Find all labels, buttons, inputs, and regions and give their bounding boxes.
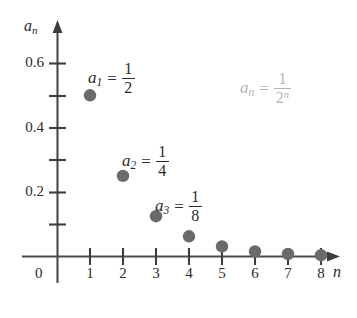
data-point-n5 — [216, 240, 228, 252]
data-point-n6 — [249, 245, 261, 257]
y-tick-label-0.2: 0.2 — [12, 184, 44, 199]
x-tick-label-7: 7 — [280, 266, 296, 281]
x-tick-label-5: 5 — [214, 266, 230, 281]
data-point-n4 — [183, 230, 195, 242]
annotation-a2-denominator: 4 — [156, 162, 168, 179]
annotation-a3-denominator: 8 — [189, 207, 201, 224]
y-axis-label-term: a — [24, 17, 32, 34]
x-axis-label-term: n — [333, 263, 341, 280]
plot-canvas — [0, 0, 357, 318]
y-tick-label-0.6: 0.6 — [12, 55, 44, 70]
annotation-general-subscript: n — [249, 87, 255, 99]
annotation-a2-equals: = — [141, 152, 151, 172]
annotation-a1-equals: = — [107, 69, 117, 89]
x-axis-label: n — [333, 264, 341, 280]
annotation-general-numerator: 1 — [276, 71, 288, 88]
y-axis-label-subscript: n — [32, 24, 38, 36]
x-axis-arrowhead — [327, 252, 340, 262]
annotation-general-denominator: 2n — [274, 89, 291, 106]
x-tick-label-8: 8 — [313, 266, 329, 281]
annotation-a1: a1 = 1 2 — [88, 61, 135, 96]
annotation-general-formula: an = 1 2n — [240, 71, 291, 106]
x-tick-label-1: 1 — [82, 266, 98, 281]
annotation-a1-term: a1 — [88, 68, 102, 88]
x-tick-label-4: 4 — [181, 266, 197, 281]
annotation-a3-equals: = — [174, 197, 184, 217]
x-tick-label-3: 3 — [148, 266, 164, 281]
annotation-a1-denominator: 2 — [122, 79, 134, 96]
annotation-a1-fraction: 1 2 — [122, 61, 135, 96]
sequence-plot-figure: an n 0.6 0.4 0.2 0 1 2 3 4 5 6 7 8 a1 = … — [0, 0, 357, 318]
annotation-a3-subscript: 3 — [164, 205, 170, 217]
annotation-a3: a3 = 1 8 — [155, 189, 202, 224]
annotation-a2-fraction: 1 4 — [156, 144, 169, 179]
annotation-a3-numerator: 1 — [189, 189, 201, 206]
annotation-a2-term: a2 — [122, 151, 136, 171]
y-axis-label: an — [24, 18, 38, 36]
origin-label: 0 — [35, 266, 43, 281]
annotation-a3-fraction: 1 8 — [189, 189, 202, 224]
annotation-a2-numerator: 1 — [156, 144, 168, 161]
annotation-a3-term: a3 — [155, 196, 169, 216]
y-tick-label-0.4: 0.4 — [12, 120, 44, 135]
annotation-general-exponent: n — [284, 90, 289, 101]
x-tick-label-2: 2 — [115, 266, 131, 281]
data-point-n8 — [315, 249, 327, 261]
data-point-n7 — [282, 248, 294, 260]
annotation-general-fraction: 1 2n — [274, 71, 291, 106]
y-axis-arrowhead — [53, 20, 63, 33]
annotation-a2-subscript: 2 — [131, 160, 137, 172]
annotation-a1-subscript: 1 — [97, 77, 103, 89]
x-tick-label-6: 6 — [247, 266, 263, 281]
annotation-a1-numerator: 1 — [122, 61, 134, 78]
annotation-general-equals: = — [259, 79, 269, 99]
annotation-a2: a2 = 1 4 — [122, 144, 169, 179]
annotation-general-term: an — [240, 78, 254, 98]
